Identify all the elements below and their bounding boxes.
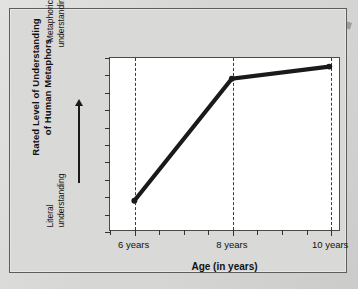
data-series-line: [110, 58, 339, 230]
up-arrow-icon: [78, 105, 80, 183]
data-point-8-years: [229, 76, 235, 82]
x-axis-tick-major: [233, 230, 234, 236]
x-axis-title: Age (in years): [109, 261, 340, 272]
x-axis-tick-major: [135, 230, 136, 236]
x-tick-label-10-years: 10 years: [312, 239, 348, 250]
y-axis-anchor-high: Metaphorical understanding: [45, 0, 66, 90]
x-axis-tick: [257, 230, 258, 235]
x-axis-tick: [307, 230, 308, 235]
x-axis-tick-major: [331, 230, 332, 236]
y-axis-anchor-high-line1: Metaphorical: [45, 0, 55, 42]
data-point-6-years: [131, 198, 137, 204]
y-axis-anchor-low-line1: Literal: [45, 204, 55, 227]
data-point-10-years: [326, 64, 332, 70]
y-axis-anchor-low-line2: understanding: [55, 174, 65, 228]
x-axis-tick: [282, 230, 283, 235]
chart-panel: Rated Level of Understanding of Human Me…: [9, 8, 347, 273]
x-axis-tick: [159, 230, 160, 235]
series-polyline: [134, 67, 329, 201]
x-axis-tick: [184, 230, 185, 235]
x-tick-label-8-years: 8 years: [216, 239, 247, 250]
x-axis-tick: [208, 230, 209, 235]
y-axis-title-line1: Rated Level of Understanding: [30, 18, 41, 155]
figure-scan: Rated Level of Understanding of Human Me…: [0, 0, 358, 289]
x-tick-label-6-years: 6 years: [118, 239, 149, 250]
y-axis-anchor-high-line2: understanding: [55, 0, 65, 47]
x-axis-tick: [110, 230, 111, 235]
y-axis-anchor-low: Literal understanding: [45, 132, 66, 228]
plot-area: [109, 57, 340, 231]
